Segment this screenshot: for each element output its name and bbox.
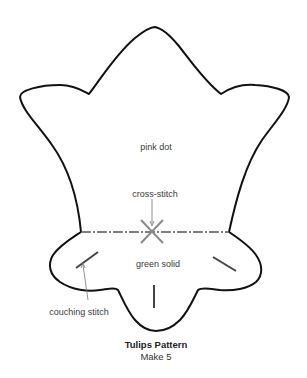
couching-stitch-label: couching stitch (49, 307, 109, 317)
pattern-subtitle: Make 5 (140, 351, 171, 362)
lower-fabric-label: green solid (136, 259, 180, 269)
couching-stitch-right (213, 257, 236, 271)
upper-piece-outline (20, 27, 289, 232)
cross-stitch-leader (150, 199, 154, 226)
upper-fabric-label: pink dot (140, 142, 172, 152)
cross-stitch-label: cross-stitch (132, 189, 178, 199)
couching-stitch-left (76, 252, 98, 268)
tulip-pattern-diagram: pink dot cross-stitch green solid couchi… (0, 0, 307, 378)
couching-leader (81, 263, 88, 300)
pattern-title: Tulips Pattern (125, 339, 188, 350)
